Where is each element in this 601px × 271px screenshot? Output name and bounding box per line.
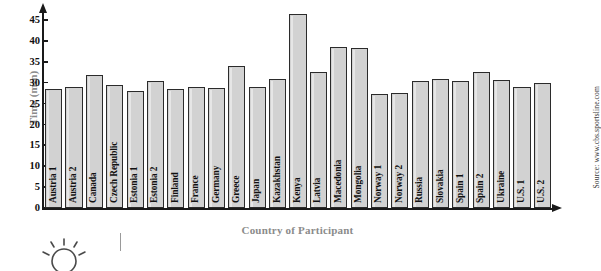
bar: Finland xyxy=(167,89,184,208)
y-axis-tick-label: 20 xyxy=(14,119,40,131)
y-axis-tick: 30 xyxy=(8,77,48,89)
bar: Mongolia xyxy=(351,48,368,208)
bar: Czech Republic xyxy=(106,85,123,208)
bar-category-label: Canada xyxy=(88,172,98,203)
y-axis-tick-label: 30 xyxy=(14,77,40,89)
y-axis-tick: 20 xyxy=(8,119,48,131)
bar: Ukraine xyxy=(493,80,510,208)
bar: France xyxy=(188,87,205,208)
bar-category-label: Latvia xyxy=(312,178,322,203)
y-axis-tick-label: 10 xyxy=(14,160,40,172)
y-axis-tick-label: 45 xyxy=(14,14,40,26)
bar-category-label: Greece xyxy=(231,176,241,203)
y-axis-tick: 5 xyxy=(8,181,48,193)
bar-category-label: Slovakia xyxy=(435,169,445,203)
bar-category-label: Finland xyxy=(170,172,180,203)
y-axis-tick: 25 xyxy=(8,98,48,110)
y-axis-tick: 45 xyxy=(8,14,48,26)
bar: Kazakhstan xyxy=(269,79,286,208)
y-axis-tick-label: 15 xyxy=(14,139,40,151)
vertical-rule xyxy=(120,233,121,251)
bar-category-label: France xyxy=(190,175,200,203)
x-axis-line xyxy=(42,208,553,210)
sun-icon xyxy=(36,231,92,271)
y-axis-tick-label: 35 xyxy=(14,56,40,68)
bar: Norway 2 xyxy=(391,93,408,208)
bar: Russia xyxy=(412,81,429,208)
bar: Spain 1 xyxy=(452,81,469,208)
y-axis-tick-label: 40 xyxy=(14,35,40,47)
bar: Latvia xyxy=(310,72,327,208)
bar-category-label: Czech Republic xyxy=(109,142,119,203)
bar-category-label: Russia xyxy=(414,177,424,203)
bar: Japan xyxy=(249,87,266,208)
bar: Macedonia xyxy=(330,47,347,208)
y-axis-tick-label: 25 xyxy=(14,98,40,110)
x-axis-title: Country of Participant xyxy=(42,224,553,236)
bar: Austria 1 xyxy=(45,89,62,208)
bar: Estonia 1 xyxy=(127,91,144,208)
bar-category-label: Macedonia xyxy=(333,160,343,203)
bar-category-label: Kenya xyxy=(292,177,302,203)
bar-category-label: Mongolia xyxy=(353,166,363,203)
bar: Greece xyxy=(228,66,245,208)
y-axis-tick: 15 xyxy=(8,139,48,151)
bar: Canada xyxy=(86,75,103,208)
bar-category-label: Kazakhstan xyxy=(272,156,282,203)
bar-category-label: Austria 2 xyxy=(68,167,78,203)
x-axis-arrowhead xyxy=(552,204,562,212)
bar-category-label: Estonia 2 xyxy=(149,167,159,203)
bar-category-label: Estonia 1 xyxy=(129,167,139,203)
y-axis-tick: 35 xyxy=(8,56,48,68)
bar-category-label: Norway 2 xyxy=(394,165,404,203)
bar: Norway 1 xyxy=(371,94,388,208)
bar: Estonia 2 xyxy=(147,81,164,208)
source-note: Source: www.cbs.sportsline.com xyxy=(592,86,601,188)
y-axis-tick: 0 xyxy=(8,202,48,214)
y-axis-tick-label: 5 xyxy=(14,181,40,193)
y-axis-tick: 10 xyxy=(8,160,48,172)
plot-area: 051015202530354045 Austria 1Austria 2Can… xyxy=(42,12,565,208)
bar: U.S. 1 xyxy=(513,87,530,208)
bar: Austria 2 xyxy=(65,87,82,208)
bar-category-label: Spain 2 xyxy=(475,174,485,203)
bar-category-label: Spain 1 xyxy=(455,174,465,203)
bar: Kenya xyxy=(289,14,306,208)
bar: U.S. 2 xyxy=(534,83,551,208)
bar-category-label: U.S. 2 xyxy=(536,180,546,203)
bar-category-label: Japan xyxy=(251,179,261,203)
bar-category-label: Ukraine xyxy=(496,171,506,203)
y-axis-tick: 40 xyxy=(8,35,48,47)
bar-category-label: Norway 1 xyxy=(373,165,383,203)
bar: Germany xyxy=(208,88,225,208)
bar-series: Austria 1Austria 2CanadaCzech RepublicEs… xyxy=(44,12,553,208)
bar-category-label: Germany xyxy=(211,166,221,203)
bar-category-label: Austria 1 xyxy=(48,167,58,203)
y-axis-tick-label: 0 xyxy=(14,202,40,214)
bar: Spain 2 xyxy=(473,72,490,208)
bar: Slovakia xyxy=(432,79,449,208)
bar-category-label: U.S. 1 xyxy=(516,180,526,203)
